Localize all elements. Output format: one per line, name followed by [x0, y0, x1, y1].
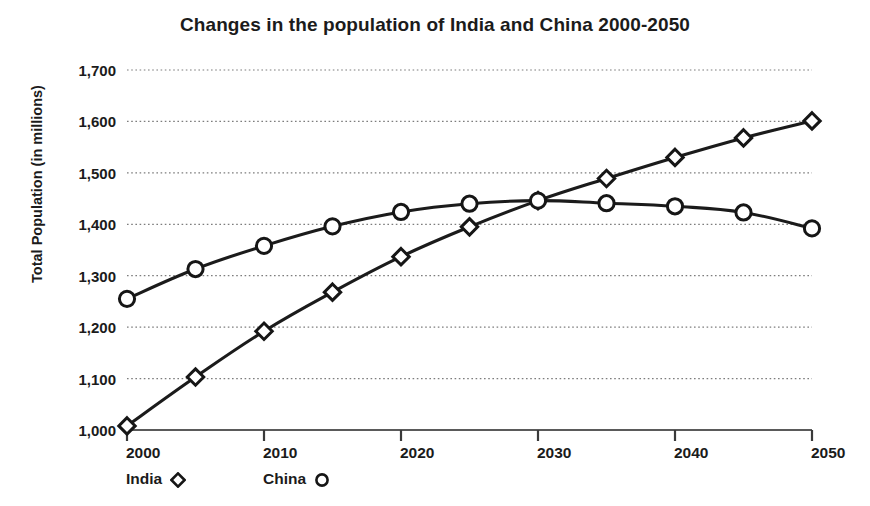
data-point-marker-diamond — [598, 170, 614, 186]
data-point-marker-circle — [188, 261, 203, 276]
data-point-marker-circle — [804, 221, 819, 236]
data-point-marker-circle — [256, 238, 271, 253]
legend-item-china[interactable]: China — [263, 470, 329, 488]
series-china — [119, 193, 819, 306]
diamond-icon — [170, 472, 185, 487]
data-point-marker-circle — [667, 199, 682, 214]
data-point-marker-circle — [119, 291, 134, 306]
data-point-marker-diamond — [461, 219, 477, 235]
data-point-marker-diamond — [667, 149, 683, 165]
circle-glyph — [316, 474, 327, 485]
data-point-marker-circle — [393, 204, 408, 219]
legend-label: China — [263, 470, 306, 488]
circle-icon — [314, 472, 329, 487]
data-point-marker-circle — [599, 196, 614, 211]
data-point-marker-diamond — [804, 113, 820, 129]
chart-figure: Changes in the population of India and C… — [0, 0, 870, 506]
legend-item-india[interactable]: India — [126, 470, 185, 488]
data-point-marker-diamond — [393, 248, 409, 264]
data-point-marker-diamond — [324, 284, 340, 300]
series-line-china — [127, 201, 812, 299]
chart-legend: IndiaChina — [0, 470, 870, 498]
x-axis-tick-label: 2010 — [263, 444, 297, 462]
legend-label: India — [126, 470, 162, 488]
diamond-glyph — [172, 473, 185, 486]
plot-area — [0, 0, 870, 506]
data-point-marker-circle — [325, 219, 340, 234]
x-axis-tick-label: 2000 — [126, 444, 160, 462]
series-line-india — [127, 121, 812, 426]
x-axis-tick-label: 2040 — [674, 444, 708, 462]
data-point-marker-diamond — [256, 323, 272, 339]
data-point-marker-circle — [530, 193, 545, 208]
data-point-marker-circle — [462, 196, 477, 211]
x-axis-tick-label: 2030 — [537, 444, 571, 462]
data-point-marker-circle — [736, 205, 751, 220]
series-india — [119, 113, 820, 434]
data-point-marker-diamond — [735, 130, 751, 146]
x-axis-tick-label: 2050 — [811, 444, 845, 462]
x-axis-tick-label: 2020 — [400, 444, 434, 462]
